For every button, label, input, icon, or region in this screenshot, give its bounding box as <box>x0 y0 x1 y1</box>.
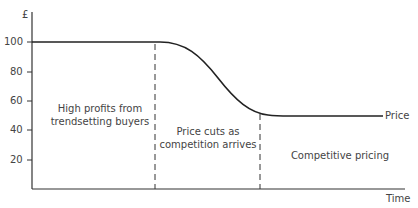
y-tick-40: 40 <box>10 124 23 136</box>
y-tick-20: 20 <box>10 154 23 166</box>
region-1-line2: trendsetting buyers <box>50 115 150 128</box>
y-tick-60: 60 <box>10 95 23 107</box>
x-axis-label: Time <box>386 193 410 205</box>
region-2-line2: competition arrives <box>158 138 258 151</box>
region-3-label: Competitive pricing <box>280 149 400 162</box>
series-label: Price <box>385 110 409 122</box>
y-unit-label: £ <box>22 9 28 21</box>
region-3-line1: Competitive pricing <box>280 149 400 162</box>
y-tick-80: 80 <box>10 66 23 78</box>
region-2-line1: Price cuts as <box>158 125 258 138</box>
y-ticks <box>27 42 32 160</box>
y-tick-100: 100 <box>4 36 23 48</box>
region-2-label: Price cuts as competition arrives <box>158 125 258 151</box>
region-1-label: High profits from trendsetting buyers <box>50 102 150 128</box>
region-1-line1: High profits from <box>50 102 150 115</box>
